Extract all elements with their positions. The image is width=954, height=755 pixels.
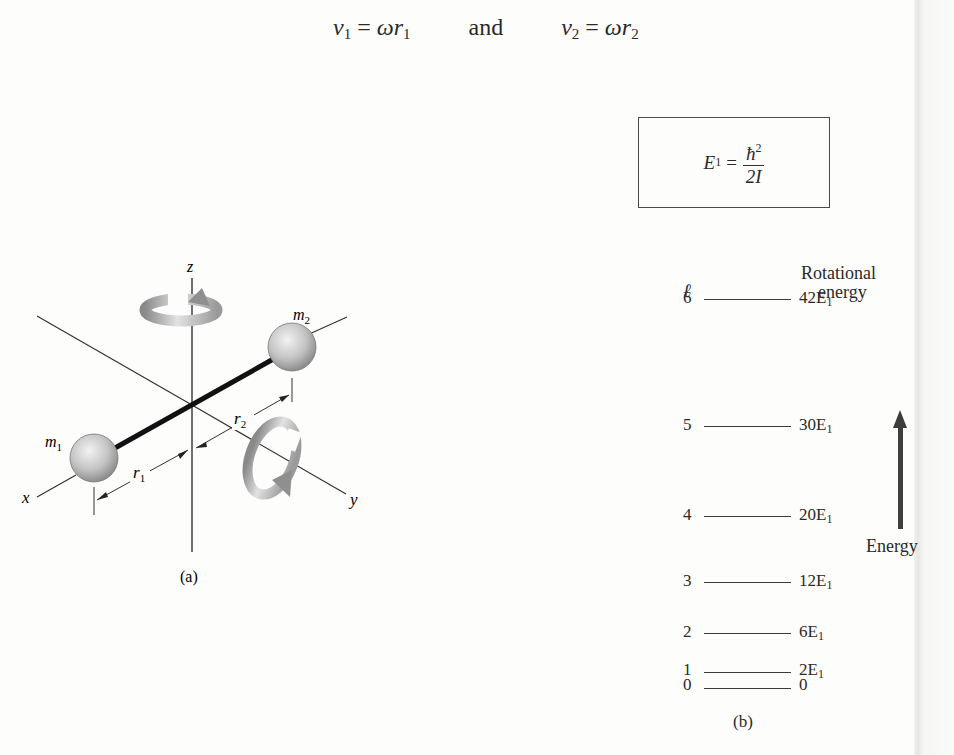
level-energy-value: 20E (799, 505, 826, 524)
v1-subscript: 1 (344, 26, 352, 42)
r2-subscript: 2 (631, 26, 639, 42)
level-l-value: 0 (683, 675, 692, 695)
figure-b-caption: (b) (733, 712, 753, 732)
equals-sign: = (726, 152, 737, 174)
e1-formula-box: E1 = ħ2 2I (638, 117, 830, 208)
e-subscript: 1 (715, 155, 721, 170)
level-line (704, 582, 791, 583)
omega-symbol: ω (605, 14, 622, 40)
energy-arrow-shaft (898, 425, 903, 529)
e-symbol: E (704, 152, 716, 174)
level-line (704, 688, 791, 689)
denominator: 2I (746, 166, 762, 188)
v2-subscript: 2 (572, 26, 580, 42)
level-energy-subscript: 1 (826, 295, 832, 309)
v1-symbol: v (333, 14, 344, 40)
omega-symbol: ω (377, 14, 394, 40)
level-l-value: 2 (683, 622, 692, 642)
fraction: ħ2 2I (743, 137, 765, 188)
v2-symbol: v (561, 14, 572, 40)
level-energy-value: 42E (799, 288, 826, 307)
level-l-value: 5 (683, 415, 692, 435)
level-line (704, 633, 791, 634)
r1-subscript: 1 (403, 26, 411, 42)
level-l-value: 4 (683, 505, 692, 525)
rigid-rotor-diagram: z x y m1 m2 r1 r2 (a) (0, 240, 400, 600)
m1-label: m1 (45, 433, 62, 453)
level-energy-value: 0 (799, 675, 808, 694)
r1-symbol: r (394, 14, 403, 40)
level-energy-subscript: 1 (818, 667, 824, 681)
conjunction-text: and (469, 14, 504, 40)
level-l-value: 6 (683, 288, 692, 308)
energy-axis-label: Energy (866, 536, 918, 557)
level-line (704, 672, 791, 673)
level-line (704, 426, 791, 427)
y-axis-label: y (348, 490, 358, 509)
hbar-symbol: ħ (746, 143, 756, 164)
x-axis-label: x (21, 488, 30, 507)
x-axis-upper (37, 316, 192, 405)
level-energy-subscript: 1 (826, 578, 832, 592)
mass-m2-sphere (268, 323, 316, 371)
equals-sign: = (357, 14, 371, 40)
exponent: 2 (755, 141, 761, 155)
level-energy-value: 6E (799, 622, 818, 641)
z-axis-label: z (186, 258, 194, 275)
velocity-equation: v1 = ωr1 and v2 = ωr2 (333, 14, 639, 43)
level-line (704, 516, 791, 517)
level-line (704, 299, 791, 300)
r2-symbol: r (622, 14, 631, 40)
mass-m1-sphere (70, 434, 118, 482)
rigid-rod (115, 357, 277, 448)
level-l-value: 3 (683, 571, 692, 591)
y-axis (192, 405, 346, 494)
x-axis-lower (37, 475, 76, 497)
level-energy-subscript: 1 (826, 422, 832, 436)
level-energy-subscript: 1 (818, 629, 824, 643)
level-energy-value: 12E (799, 571, 826, 590)
equals-sign: = (585, 14, 599, 40)
level-energy-value: 30E (799, 415, 826, 434)
rotational-energy-header-line1: Rotational (801, 263, 876, 284)
level-energy-subscript: 1 (826, 512, 832, 526)
figure-a-caption: (a) (180, 568, 198, 586)
rotation-arrow-z-icon (145, 288, 217, 321)
page-edge-shadow (914, 0, 954, 755)
